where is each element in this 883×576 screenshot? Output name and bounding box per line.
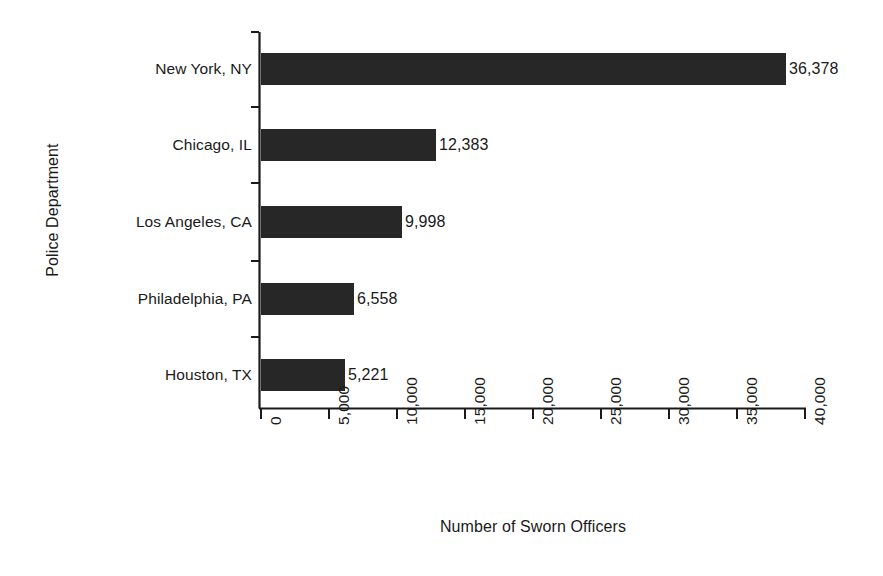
x-tick-label-5: 25,000 <box>608 377 624 425</box>
x-tick-label-3: 15,000 <box>472 377 488 425</box>
y-tick-label-2: Los Angeles, CA <box>40 213 252 231</box>
bar-los-angeles <box>261 206 402 238</box>
bar-value-label-1: 12,383 <box>439 136 489 154</box>
bar-value-label-2: 9,998 <box>405 213 446 231</box>
category-label: Chicago, IL <box>40 136 252 154</box>
y-tick-label-0: New York, NY <box>40 60 252 78</box>
chart-axes <box>0 0 883 576</box>
bar-value-label-3: 6,558 <box>357 290 398 308</box>
category-label: New York, NY <box>40 60 252 78</box>
category-label: Houston, TX <box>40 366 252 384</box>
category-label: Los Angeles, CA <box>40 213 252 231</box>
bar-chart: Police Department Number of Sworn Office… <box>0 0 883 576</box>
x-tick-label-4: 20,000 <box>540 377 556 425</box>
bar-value-label-4: 5,221 <box>348 366 389 384</box>
x-axis-title: Number of Sworn Officers <box>261 518 805 536</box>
x-tick-label-1: 5,000 <box>336 386 352 425</box>
category-label: Philadelphia, PA <box>40 290 252 308</box>
x-tick-label-0: 0 <box>268 416 284 425</box>
y-tick-label-1: Chicago, IL <box>40 136 252 154</box>
bar-philadelphia <box>261 283 354 315</box>
y-tick-label-3: Philadelphia, PA <box>40 290 252 308</box>
x-tick-label-7: 35,000 <box>744 377 760 425</box>
x-tick-label-8: 40,000 <box>812 377 828 425</box>
bar-new-york <box>261 53 786 85</box>
x-tick-label-6: 30,000 <box>676 377 692 425</box>
bar-chicago <box>261 129 436 161</box>
y-tick-label-4: Houston, TX <box>40 366 252 384</box>
x-tick-label-2: 10,000 <box>404 377 420 425</box>
bar-value-label-0: 36,378 <box>789 60 839 78</box>
bar-houston <box>261 359 345 391</box>
